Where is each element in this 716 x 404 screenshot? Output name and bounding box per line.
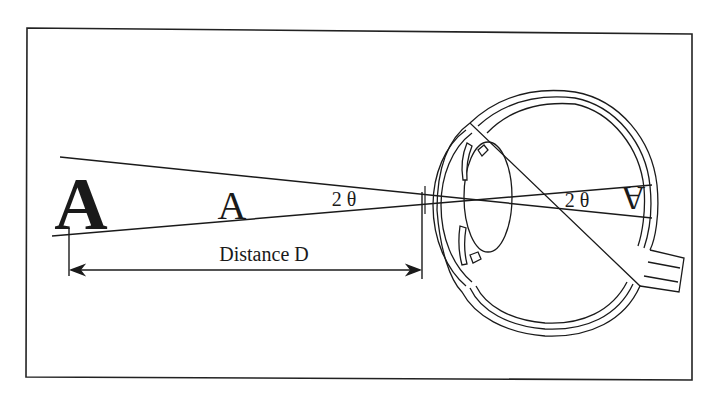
eye-cross-section (433, 90, 684, 336)
retinal-angle-label: 2 θ (565, 189, 590, 211)
small-object-label: A (218, 183, 247, 228)
iris-lower (459, 226, 467, 265)
object-angle-label: 2 θ (332, 188, 357, 210)
visual-angle-diagram: A A 2 θ Distance D 2 θ A (0, 0, 716, 404)
ciliary-lower (470, 252, 481, 263)
distance-label: Distance D (219, 243, 308, 265)
frame (26, 28, 692, 380)
iris-upper (462, 143, 472, 180)
optic-nerve (640, 250, 684, 292)
retinal-image-label: A (620, 180, 645, 217)
retina (476, 103, 645, 323)
ciliary-upper (478, 145, 488, 156)
large-object-label: A (54, 163, 107, 245)
